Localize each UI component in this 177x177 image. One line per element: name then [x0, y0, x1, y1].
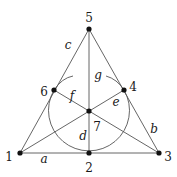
- point-label-1: 1: [5, 150, 13, 164]
- line-label-b: b: [150, 122, 158, 136]
- line-label-g: g: [94, 68, 102, 82]
- point-label-2: 2: [85, 161, 93, 175]
- line-label-c: c: [65, 38, 72, 52]
- line-labels: a b c d e f g: [40, 38, 157, 166]
- line-label-e: e: [112, 95, 119, 109]
- point-3: [156, 150, 161, 155]
- point-label-3: 3: [164, 150, 172, 164]
- point-1: [17, 150, 22, 155]
- arc-tail-left: [54, 76, 73, 90]
- line-label-f: f: [69, 89, 77, 103]
- points-group: [17, 26, 161, 155]
- point-6: [51, 87, 56, 92]
- point-2: [86, 150, 91, 155]
- point-label-6: 6: [40, 85, 48, 99]
- arc-tail-right: [106, 76, 124, 90]
- point-5: [86, 26, 91, 31]
- line-label-a: a: [40, 152, 47, 166]
- point-label-4: 4: [129, 80, 137, 94]
- point-labels: 1 2 3 4 5 6 7: [5, 11, 172, 175]
- line-label-d: d: [79, 129, 87, 143]
- point-label-7: 7: [93, 120, 101, 134]
- fano-plane-diagram: 1 2 3 4 5 6 7 a b c d e f g: [0, 0, 177, 177]
- point-label-5: 5: [85, 11, 93, 25]
- point-4: [121, 87, 126, 92]
- point-7: [86, 108, 91, 113]
